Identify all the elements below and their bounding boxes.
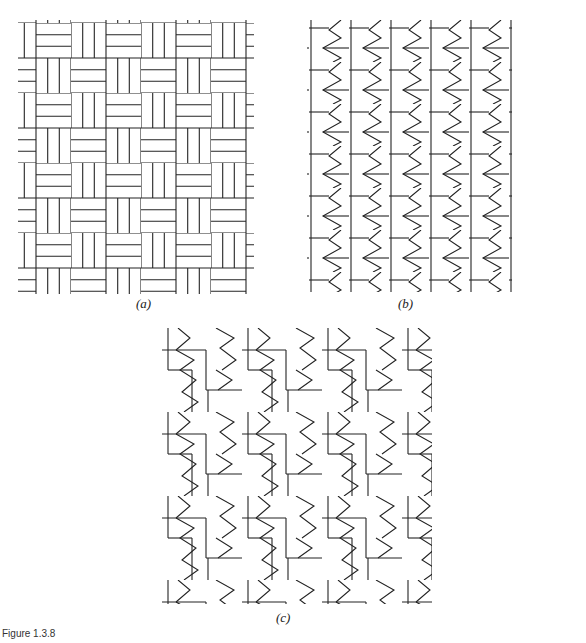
figure-caption: Figure 1.3.8 <box>2 628 55 639</box>
staggered-zigzag-pattern <box>162 328 432 604</box>
panel-c-label: (c) <box>276 610 290 626</box>
panel-a-basketweave <box>18 20 254 294</box>
panel-a-label: (a) <box>136 296 151 312</box>
panel-c-staggered-zigzag <box>162 328 432 604</box>
panel-b-zigzag-columns <box>307 20 512 292</box>
panel-b-label: (b) <box>398 296 413 312</box>
zigzag-columns-pattern <box>307 20 512 292</box>
basketweave-pattern <box>18 20 254 294</box>
